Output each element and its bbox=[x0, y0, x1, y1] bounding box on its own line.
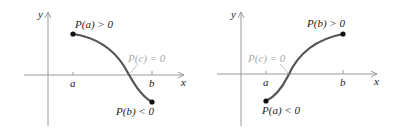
label-pb-positive: P(b) > 0 bbox=[307, 18, 345, 29]
left-panel-decreasing: y x a b P(a) > 0 P(b) < 0 P(c) = 0 bbox=[0, 0, 199, 136]
tick-label-a: a bbox=[70, 78, 76, 89]
label-root-pc-zero: P(c) = 0 bbox=[248, 53, 285, 64]
point-pa bbox=[70, 31, 75, 36]
increasing-curve bbox=[266, 34, 343, 101]
x-axis-label: x bbox=[374, 76, 379, 87]
right-panel-increasing: y x a b P(b) > 0 P(a) < 0 P(c) = 0 bbox=[199, 0, 398, 136]
tick-label-b: b bbox=[340, 77, 346, 88]
label-pb-negative: P(b) < 0 bbox=[116, 106, 154, 117]
y-axis-label: y bbox=[38, 9, 43, 20]
point-pa bbox=[263, 98, 268, 103]
y-axis-label: y bbox=[231, 9, 236, 20]
tick-label-b: b bbox=[149, 78, 155, 89]
point-pb bbox=[149, 99, 154, 104]
x-axis-label: x bbox=[181, 77, 186, 88]
root-pointer-line bbox=[129, 64, 138, 74]
point-pb bbox=[340, 31, 345, 36]
root-pointer-line bbox=[280, 64, 289, 74]
decreasing-curve bbox=[73, 34, 152, 102]
label-pa-negative: P(a) < 0 bbox=[262, 105, 300, 116]
label-pa-positive: P(a) > 0 bbox=[75, 19, 113, 30]
label-root-pc-zero: P(c) = 0 bbox=[128, 53, 165, 64]
tick-label-a: a bbox=[263, 77, 269, 88]
